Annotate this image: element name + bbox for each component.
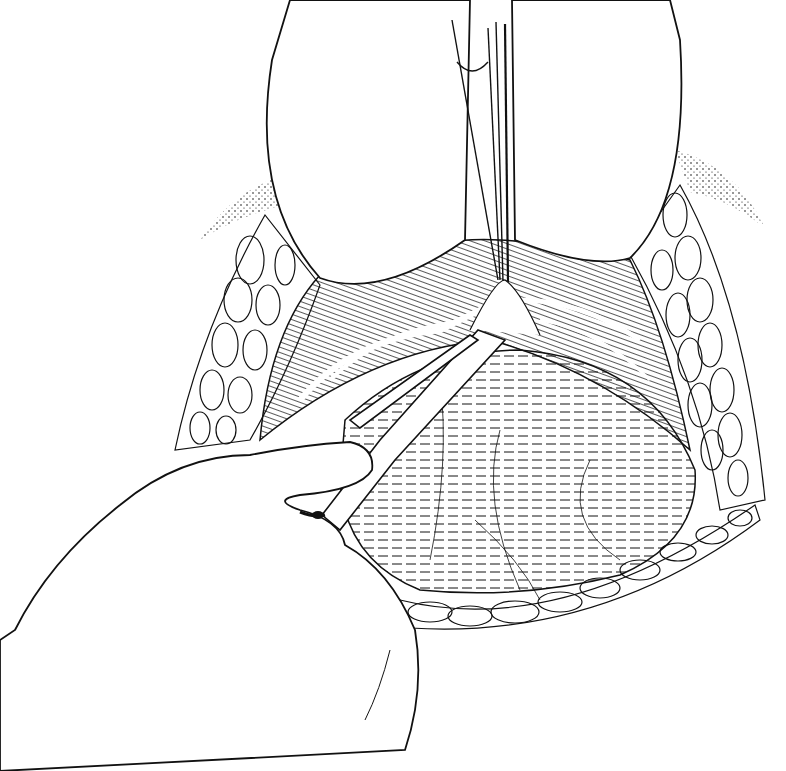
- illustration-svg: [0, 0, 786, 771]
- surgical-illustration: [0, 0, 786, 771]
- retractor-blade-right: [512, 0, 681, 261]
- retractor-blade-left: [267, 0, 470, 284]
